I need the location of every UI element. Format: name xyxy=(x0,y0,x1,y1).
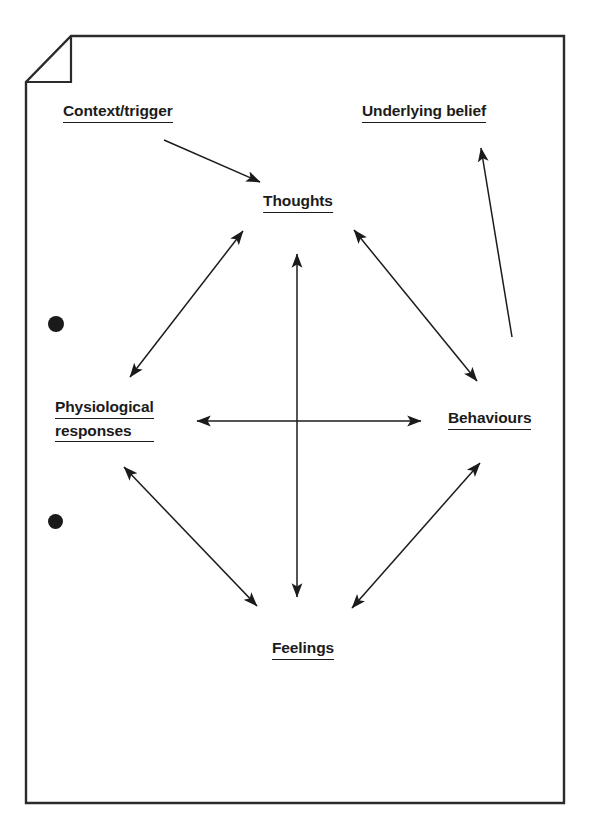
node-label-feelings: Feelings xyxy=(272,640,334,660)
arrow-behaviours-feelings xyxy=(352,463,480,608)
arrow-context-to-thoughts xyxy=(164,140,260,182)
node-label-line: Thoughts xyxy=(263,193,333,213)
arrow-thoughts-physiological xyxy=(130,231,243,377)
node-label-line: Behaviours xyxy=(448,410,531,430)
worksheet-page: Context/trigger Underlying belief Though… xyxy=(0,0,591,824)
node-label-thoughts: Thoughts xyxy=(263,193,333,213)
node-label-context-trigger: Context/trigger xyxy=(63,103,173,123)
arrow-physiological-feelings xyxy=(124,467,257,606)
node-label-behaviours: Behaviours xyxy=(448,410,531,430)
arrow-thoughts-behaviours xyxy=(354,230,477,381)
node-label-line: Context/trigger xyxy=(63,103,173,123)
node-label-line: responses xyxy=(55,423,154,443)
node-label-physiological-responses: Physiological responses xyxy=(55,399,154,442)
node-label-line: Feelings xyxy=(272,640,334,660)
arrow-behaviours-to-underlying-belief xyxy=(481,148,512,337)
node-label-underlying-belief: Underlying belief xyxy=(362,103,486,123)
node-label-line: Underlying belief xyxy=(362,103,486,123)
node-label-line: Physiological xyxy=(55,399,154,419)
